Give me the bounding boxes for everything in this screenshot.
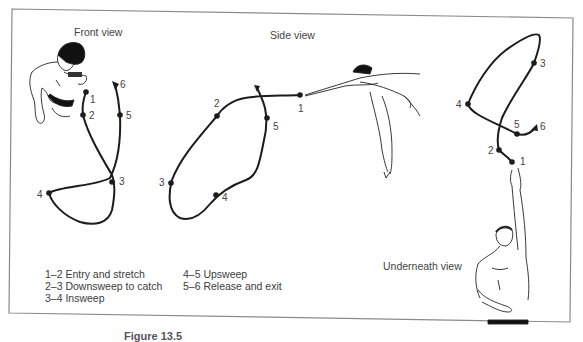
underneath-label-5: 5 [514,120,520,130]
side-point-1 [297,92,303,98]
legend-right: 4–5 Upsweep 5–6 Release and exit [183,268,282,292]
underneath-label-1: 1 [520,157,526,167]
side-point-4 [213,192,219,198]
side-label-4: 4 [222,193,228,203]
figure-caption: Figure 13.5 [124,330,182,342]
underneath-view-arrowhead-icon [531,124,538,131]
underneath-point-1 [509,159,515,165]
front-label-2: 2 [89,111,95,121]
front-view-swimmer-illustration [30,42,87,123]
underneath-view-title: Underneath view [383,261,462,272]
underneath-label-3: 3 [540,59,546,69]
front-label-4: 4 [37,190,43,200]
legend-item: 3–4 Insweep [45,292,162,304]
front-point-3 [109,179,115,185]
side-view-title: Side view [270,30,315,41]
legend-item: 4–5 Upsweep [183,268,282,280]
side-point-5 [264,115,270,121]
side-view-stroke-path [168,85,303,219]
front-label-6: 6 [120,80,126,90]
side-label-3: 3 [159,178,165,188]
front-label-3: 3 [119,177,125,187]
underneath-point-4 [465,101,471,107]
front-point-1 [83,89,89,95]
side-point-3 [168,180,174,186]
underneath-label-4: 4 [456,100,462,110]
side-label-5: 5 [273,122,279,132]
front-label-1: 1 [90,95,96,105]
underneath-point-3 [531,60,537,66]
front-point-5 [117,112,123,118]
underneath-view-swimmer-illustration [476,168,529,324]
underneath-label-6: 6 [540,122,546,132]
legend-item: 2–3 Downsweep to catch [45,280,162,292]
side-view-swimmer-illustration [305,65,420,178]
underneath-view-stroke-path [465,34,540,164]
side-label-1: 1 [298,104,304,114]
front-view-title: Front view [74,27,122,38]
legend-item: 1–2 Entry and stretch [45,268,162,280]
front-view-arrowhead-icon [112,81,119,90]
legend-left: 1–2 Entry and stretch 2–3 Downsweep to c… [45,268,162,304]
front-point-2 [80,112,86,118]
front-point-4 [46,190,52,196]
legend-item: 5–6 Release and exit [183,280,282,292]
underneath-label-2: 2 [488,146,494,156]
underneath-point-5 [514,131,520,137]
side-label-2: 2 [214,99,220,109]
side-point-2 [214,113,220,119]
underneath-point-2 [496,147,502,153]
front-label-5: 5 [126,111,132,121]
